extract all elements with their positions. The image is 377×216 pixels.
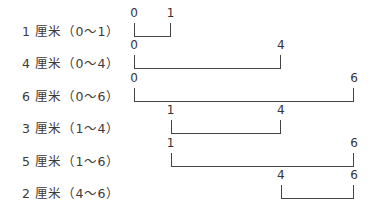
segment-bracket	[134, 56, 281, 69]
segment-bracket	[134, 24, 171, 37]
tick-start-label: 1	[167, 103, 175, 117]
tick-start-label: 0	[130, 6, 138, 20]
tick-start-label: 0	[130, 38, 138, 52]
segment-label: 1 厘米（0～1）	[22, 21, 119, 40]
tick-end-label: 6	[350, 71, 358, 85]
segment-label: 4 厘米（0～4）	[22, 53, 119, 72]
segment-label: 3 厘米（1～4）	[22, 118, 119, 137]
segment-label: 6 厘米（0～6）	[22, 86, 119, 105]
segment-bracket	[171, 154, 355, 167]
tick-start-label: 0	[130, 71, 138, 85]
tick-start-label: 1	[167, 136, 175, 150]
tick-end-label: 6	[350, 136, 358, 150]
tick-end-label: 1	[167, 6, 175, 20]
tick-end-label: 4	[277, 38, 285, 52]
segment-bracket	[281, 186, 354, 199]
segment-bracket	[134, 89, 354, 102]
tick-start-label: 4	[277, 168, 285, 182]
segment-bracket	[171, 121, 281, 134]
segment-label: 5 厘米（1～6）	[22, 151, 119, 170]
tick-end-label: 6	[350, 168, 358, 182]
tick-end-label: 4	[277, 103, 285, 117]
segment-label: 2 厘米（4～6）	[22, 183, 119, 202]
